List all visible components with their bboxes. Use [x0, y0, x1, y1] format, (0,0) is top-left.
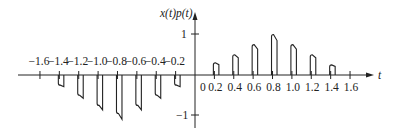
sample-pulse: [272, 35, 278, 76]
x-tick-label: −1.6: [29, 55, 50, 67]
x-tick-label: −0.4: [145, 55, 166, 67]
x-tick-label: 0.4: [228, 81, 243, 93]
y-axis-label: x(t)p(t): [159, 7, 193, 20]
x-tick-label: 0.6: [247, 81, 262, 93]
t-axis-arrow-icon: [366, 73, 374, 78]
x-tick-label: 0: [200, 81, 206, 93]
x-tick-label: 0.2: [208, 81, 223, 93]
x-tick-label: 1.6: [344, 81, 359, 93]
sample-pulse: [136, 75, 142, 110]
x-tick-label: −1.0: [87, 55, 108, 67]
y-tick-label-1: 1: [181, 28, 187, 40]
x-tick-label: −0.8: [106, 55, 127, 67]
t-axis-label: t: [378, 69, 382, 81]
x-tick-label: 0.8: [266, 81, 281, 93]
x-tick-label: −1.4: [48, 55, 69, 67]
x-tick-label: −1.2: [67, 55, 88, 67]
sample-pulse: [252, 45, 258, 75]
sample-pulse: [291, 45, 297, 75]
x-tick-label: −0.6: [125, 55, 146, 67]
x-tick-label: 1.0: [286, 81, 301, 93]
sample-pulse: [97, 75, 103, 110]
sampled-signal-diagram: x(t)p(t) t 1 −1 −1.6−1.4−1.2−1.0−0.8−0.6…: [0, 0, 401, 135]
sample-pulse: [116, 75, 122, 119]
x-tick-label: 1.4: [324, 81, 339, 93]
y-axis-arrow-icon: [193, 12, 198, 20]
sample-pulses: [58, 35, 335, 120]
x-tick-label: 1.2: [305, 81, 320, 93]
x-tick-label: −0.2: [164, 55, 185, 67]
y-tick-label-minus-1: −1: [176, 109, 188, 121]
